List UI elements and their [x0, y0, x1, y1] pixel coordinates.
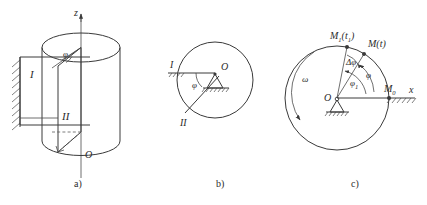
panel-a-z-label: z	[73, 7, 78, 18]
panel-c-caption: c)	[351, 178, 359, 190]
panel-b: I II φ O b)	[168, 42, 253, 190]
panel-c-center-label: O	[324, 92, 331, 103]
panel-a-plane-two-label: II	[61, 110, 71, 122]
wall-hatching	[12, 60, 20, 130]
panel-b-center-label: O	[221, 61, 228, 72]
panel-c-omega-label: ω	[302, 74, 308, 84]
panel-b-plane-two-line	[185, 76, 219, 113]
panel-c-pivot-triangle	[330, 100, 344, 112]
panel-c-m-label: M(t)	[367, 38, 386, 50]
panel-c-ground-hatching	[325, 112, 348, 116]
panel-c-omega-arc	[291, 52, 314, 120]
panel-c-m0-label: M0	[383, 83, 396, 96]
panel-b-phi-label: φ	[192, 80, 197, 90]
panel-b-plane-one-hatching	[169, 73, 184, 77]
panel-a-phi-label: φ	[63, 49, 68, 59]
panel-a-corner-tick	[56, 146, 64, 152]
panel-c-point-m	[362, 52, 366, 56]
panel-c: x φ φ1 Δφ ω	[285, 30, 416, 190]
panel-b-caption: b)	[216, 178, 224, 190]
panel-c-phi-label: φ	[366, 70, 371, 80]
panel-a-caption: a)	[74, 178, 82, 190]
panel-a-plane-one-label: I	[29, 68, 35, 80]
panel-c-m1-label: M1(t1)	[329, 30, 355, 43]
panel-c-delta-phi-label: Δφ	[345, 57, 356, 67]
panel-c-phi1-label: φ1	[350, 78, 358, 90]
panel-a: I II φ O z a)	[12, 7, 120, 190]
panel-a-origin-label: O	[85, 149, 92, 160]
panel-c-point-m0	[387, 96, 391, 100]
panel-c-point-m1	[345, 45, 349, 49]
figure-page: I II φ O z a)	[0, 0, 427, 205]
panel-c-x-label: x	[408, 84, 414, 95]
panel-b-pivot-point	[213, 72, 216, 75]
panel-b-plane-one-label: I	[169, 59, 174, 70]
panel-b-plane-two-label: II	[179, 117, 187, 128]
technical-diagram: I II φ O z a)	[0, 0, 427, 205]
panel-c-x-axis-hatching	[387, 98, 416, 103]
plane-two-quad	[58, 48, 81, 153]
